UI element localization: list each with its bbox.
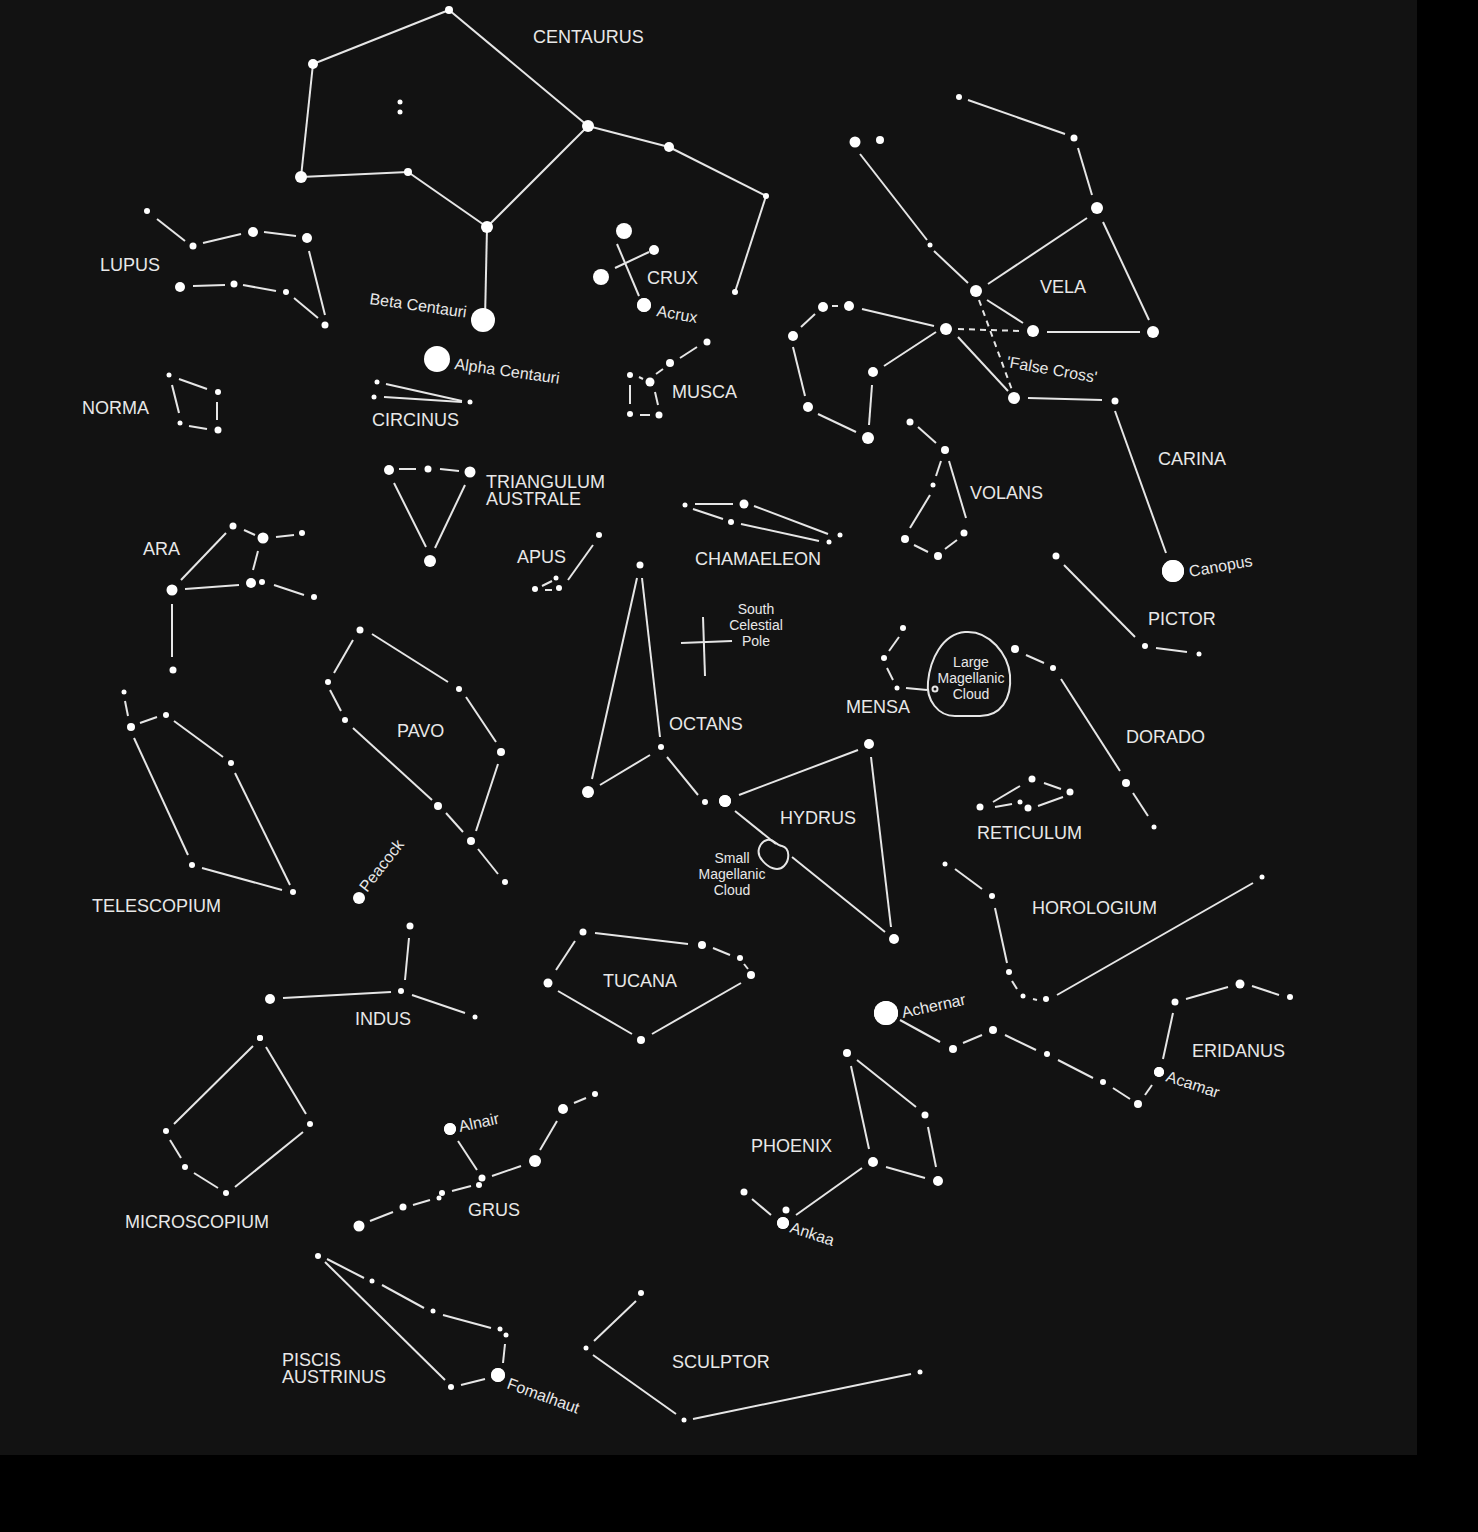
star-icon [175, 282, 185, 292]
star-icon [479, 1175, 486, 1182]
star-icon [434, 802, 442, 810]
microscopium-line [170, 1140, 181, 1158]
star-icon [868, 1157, 878, 1167]
star-icon [439, 1190, 445, 1196]
hydrus-line [792, 857, 885, 932]
star-icon [502, 879, 508, 885]
star-icon [437, 1196, 442, 1201]
lmc-label: LargeMagellanicCloud [938, 654, 1005, 702]
bright-star-icon [424, 346, 450, 372]
star-icon [1172, 999, 1179, 1006]
star-icon [864, 739, 874, 749]
star-icon [876, 136, 884, 144]
bright-star-icon [1162, 560, 1184, 582]
star-icon [384, 465, 394, 475]
constellation-map-svg: CENTAURUSCRUXLUPUSNORMACIRCINUSMUSCATRIA… [0, 0, 1417, 1455]
centaurus-line [301, 172, 408, 177]
musca-line [680, 347, 697, 358]
dorado-line [1133, 793, 1148, 816]
grus-line [413, 1200, 430, 1205]
dorado-line [1026, 655, 1044, 663]
label-grus: GRUS [468, 1200, 520, 1220]
telescopium-line [235, 773, 290, 885]
label-lupus: LUPUS [100, 255, 160, 275]
star-icon [425, 466, 432, 473]
triangulum-australe-line [394, 483, 426, 547]
star-name-acrux: Acrux [655, 302, 698, 326]
bright-star-icon [491, 1368, 505, 1382]
smc-label: SmallMagellanicCloud [699, 850, 766, 898]
false-cross-dash [958, 329, 1021, 331]
star-icon [977, 804, 984, 811]
eridanus-line [1252, 986, 1279, 995]
star-icon [737, 955, 743, 961]
star-icon [637, 562, 644, 569]
pictor-line [1064, 565, 1135, 637]
bright-star-icon [637, 298, 651, 312]
horologium-line [995, 908, 1007, 963]
reticulum-line [1044, 783, 1061, 789]
star-icon [127, 723, 135, 731]
label-horologium: HOROLOGIUM [1032, 898, 1157, 918]
horologium-line [1012, 981, 1017, 989]
volans-line [914, 545, 928, 552]
eridanus-line [1145, 1085, 1152, 1095]
label-microscopium: MICROSCOPIUM [125, 1212, 269, 1232]
star-icon [1053, 553, 1060, 560]
lmc-marker-icon [933, 687, 938, 692]
volans-line [918, 427, 936, 443]
carina-line [818, 414, 856, 432]
star-icon [322, 322, 329, 329]
star-icon [1287, 994, 1293, 1000]
star-icon [596, 532, 602, 538]
star-icon [259, 579, 265, 585]
star-icon [398, 110, 403, 115]
bright-star-icon [471, 308, 495, 332]
ara-line [253, 551, 258, 570]
star-icon [956, 94, 962, 100]
tucana-line [744, 964, 748, 969]
star-icon [1067, 789, 1074, 796]
label-vela: VELA [1040, 277, 1086, 297]
star-icon [342, 717, 348, 723]
octans-line [642, 578, 660, 737]
volans-line [936, 461, 941, 476]
label-chamaeleon: CHAMAELEON [695, 549, 821, 569]
star-icon [666, 359, 674, 367]
star-icon [1260, 875, 1265, 880]
star-icon [170, 667, 177, 674]
star-icon [167, 373, 172, 378]
chamaeleon-line [693, 509, 723, 519]
star-icon [1071, 135, 1078, 142]
apus-line [568, 545, 593, 580]
tucana-line [556, 941, 575, 970]
star-icon [702, 799, 708, 805]
hydrus-line [871, 757, 891, 927]
star-icon [223, 1190, 229, 1196]
label-piscis-austrinus: PISCISAUSTRINUS [282, 1350, 386, 1387]
vela-line [968, 100, 1065, 134]
vela-line [860, 154, 927, 240]
star-icon [593, 269, 609, 285]
lupus-line [294, 298, 318, 318]
star-icon [989, 893, 995, 899]
crux-line [615, 252, 649, 268]
star-icon [189, 862, 195, 868]
star-icon [970, 285, 982, 297]
star-icon [728, 519, 734, 525]
microscopium-line [235, 1132, 303, 1187]
vela-line [1103, 222, 1149, 320]
carina-line [793, 347, 805, 396]
musca-line [639, 377, 643, 379]
star-icon [498, 1327, 503, 1332]
star-icon [163, 1128, 169, 1134]
star-icon [1025, 805, 1032, 812]
star-icon [257, 1035, 263, 1041]
label-phoenix: PHOENIX [751, 1136, 832, 1156]
octans-line [667, 757, 698, 795]
star-icon [307, 1121, 313, 1127]
star-icon [215, 427, 222, 434]
star-icon [230, 523, 237, 530]
star-icon [732, 289, 738, 295]
pavo-line [334, 640, 353, 673]
